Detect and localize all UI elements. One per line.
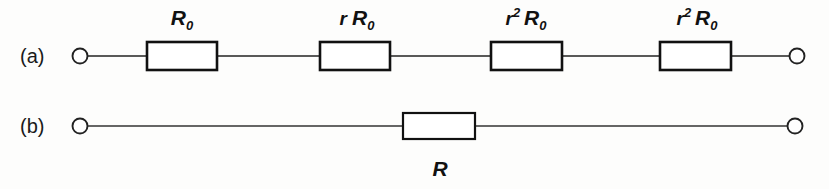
resistor-a-4 — [660, 42, 731, 70]
circuit-row-b: (b) R — [20, 113, 803, 180]
resistor-a-3-subscript: 0 — [539, 18, 547, 33]
row-label-a: (a) — [20, 45, 44, 67]
resistor-a-3-base: R — [524, 6, 540, 29]
resistor-a-2-coefficient: r — [340, 8, 349, 29]
resistor-a-1-base: R — [171, 6, 187, 29]
resistor-a-3-label: r2R0 — [505, 5, 547, 33]
resistor-a-1-subscript: 0 — [186, 18, 194, 33]
row-label-b: (b) — [20, 115, 44, 137]
resistor-a-2-subscript: 0 — [367, 18, 375, 33]
resistor-a-4-exponent: 2 — [683, 5, 692, 20]
resistor-a-1-label: R0 — [171, 6, 194, 33]
resistor-a-4-label: r2R0 — [676, 5, 718, 33]
resistor-a-3-exponent: 2 — [512, 5, 521, 20]
figure-container: (a) R0 rR0 r2R0 — [0, 0, 829, 189]
terminal-node-a-right — [790, 49, 805, 64]
resistor-a-4-base: R — [695, 6, 711, 29]
resistor-b-1-label: R — [432, 157, 448, 180]
resistor-a-1 — [147, 42, 217, 70]
resistor-a-3 — [491, 42, 562, 70]
terminal-node-b-right — [788, 119, 803, 134]
resistor-b-1 — [403, 113, 475, 139]
resistor-a-2-label: rR0 — [340, 6, 376, 33]
terminal-node-b-left — [73, 119, 88, 134]
circuit-diagram: (a) R0 rR0 r2R0 — [0, 0, 829, 189]
circuit-row-a: (a) R0 rR0 r2R0 — [20, 5, 805, 70]
terminal-node-a-left — [73, 49, 88, 64]
resistor-a-4-subscript: 0 — [710, 18, 718, 33]
resistor-a-2-base: R — [352, 6, 368, 29]
resistor-a-2 — [320, 42, 390, 70]
resistor-b-1-base: R — [432, 157, 448, 180]
